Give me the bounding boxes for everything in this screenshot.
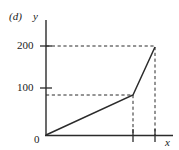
plot-canvas bbox=[0, 0, 179, 150]
y-tick-label-200: 200 bbox=[17, 40, 34, 51]
y-axis-label: y bbox=[33, 11, 38, 22]
origin-label: 0 bbox=[34, 134, 40, 145]
data-curve bbox=[46, 47, 155, 135]
x-axis-label: x bbox=[165, 137, 170, 148]
y-tick-label-100: 100 bbox=[17, 82, 34, 93]
figure-panel: (d) y x 0 200 100 bbox=[0, 0, 179, 150]
panel-tag-label: (d) bbox=[9, 11, 22, 22]
